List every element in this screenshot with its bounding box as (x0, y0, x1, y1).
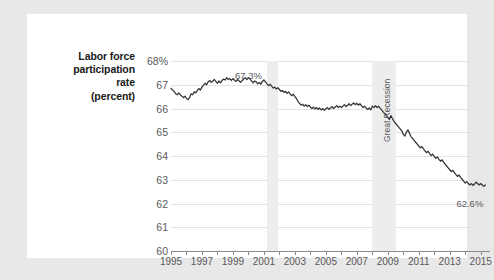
x-axis-tick-mark (279, 252, 280, 255)
x-axis-tick-label: 1999 (222, 256, 244, 267)
y-axis-tick-label: 63 (134, 174, 168, 186)
y-axis-tick-label: 64 (134, 150, 168, 162)
x-axis-tick-mark (217, 252, 218, 255)
y-axis-tick-label: 67 (134, 79, 168, 91)
x-axis-tick-mark (434, 252, 435, 255)
end-label: 62.6% (456, 198, 483, 209)
recession-band-label: Great Recession (382, 78, 392, 141)
plot-frame: 68%6766656463626160 67.3%62.6%Great Rece… (144, 47, 490, 272)
y-axis-tick-label: 68% (134, 55, 168, 67)
x-axis-tick-mark (186, 252, 187, 255)
peak-label: 67.3% (235, 70, 262, 81)
x-axis-tick-mark (481, 252, 482, 255)
labor-force-participation-line (171, 61, 490, 251)
x-axis-tick-mark (248, 252, 249, 255)
x-axis-tick-mark (403, 252, 404, 255)
y-axis-tick-label: 61 (134, 221, 168, 233)
x-axis-tick-mark (326, 252, 327, 255)
y-axis-title-line-4: (percent) (27, 90, 135, 103)
x-axis-tick-mark (202, 252, 203, 255)
x-axis-line (171, 251, 490, 252)
x-axis-tick-mark (388, 252, 389, 255)
x-axis-tick-mark (264, 252, 265, 255)
y-axis-title-line-3: rate (27, 76, 135, 89)
x-axis-tick-mark (372, 252, 373, 255)
x-axis-tick-mark (233, 252, 234, 255)
x-axis-tick-label: 1995 (160, 256, 182, 267)
y-axis-tick-label: 66 (134, 103, 168, 115)
y-axis-tick-label: 62 (134, 198, 168, 210)
x-axis-tick-mark (450, 252, 451, 255)
y-axis-title: Labor force participation rate (percent) (27, 50, 135, 103)
x-axis-tick-label: 2015 (470, 256, 492, 267)
x-axis-tick-label: 2003 (284, 256, 306, 267)
x-axis-tick-mark (419, 252, 420, 255)
x-axis-tick-mark (310, 252, 311, 255)
x-axis-tick-label: 2013 (439, 256, 461, 267)
y-axis-title-line-1: Labor force (27, 50, 135, 63)
x-axis-tick-mark (171, 252, 172, 255)
y-axis-tick-label: 65 (134, 126, 168, 138)
x-axis-tick-label: 2009 (377, 256, 399, 267)
x-axis-tick-label: 2001 (253, 256, 275, 267)
x-axis-tick-label: 2007 (346, 256, 368, 267)
y-axis-title-line-2: participation (27, 63, 135, 76)
x-axis-tick-label: 2005 (315, 256, 337, 267)
chart-figure-card: Labor force participation rate (percent)… (27, 14, 467, 258)
x-axis-tick-mark (465, 252, 466, 255)
x-axis-tick-mark (295, 252, 296, 255)
x-axis-tick-label: 1997 (191, 256, 213, 267)
x-axis-tick-mark (357, 252, 358, 255)
x-axis-tick-mark (341, 252, 342, 255)
plot-area: 67.3%62.6%Great Recession (171, 61, 490, 251)
x-axis-tick-label: 2011 (408, 256, 430, 267)
